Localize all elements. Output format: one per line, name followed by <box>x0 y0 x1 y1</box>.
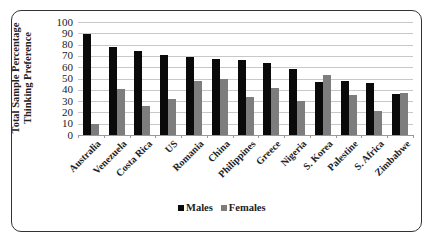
x-tick <box>258 135 259 138</box>
bar-females <box>246 97 254 135</box>
y-tick-label: 80 <box>43 39 73 50</box>
bar-females <box>220 79 228 136</box>
bar-males <box>289 69 297 135</box>
y-tick-label: 60 <box>43 62 73 73</box>
bar-males <box>366 83 374 135</box>
x-tick <box>181 135 182 138</box>
bar-females <box>400 93 408 135</box>
bar-males <box>186 57 194 135</box>
bar-males <box>109 47 117 135</box>
legend: Males Females <box>178 202 266 213</box>
y-tick-label: 40 <box>43 84 73 95</box>
gridline <box>78 67 413 68</box>
bar-males <box>263 63 271 135</box>
bar-females <box>91 124 99 135</box>
bar-males <box>160 55 168 135</box>
y-tick-label: 100 <box>43 17 73 28</box>
y-tick-label: 10 <box>43 118 73 129</box>
gridline <box>78 33 413 34</box>
y-tick-label: 30 <box>43 96 73 107</box>
x-tick <box>207 135 208 138</box>
males-swatch-icon <box>178 205 184 211</box>
bar-females <box>142 106 150 135</box>
bar-males <box>315 82 323 135</box>
y-tick-label: 20 <box>43 107 73 118</box>
legend-label-females: Females <box>229 202 266 213</box>
bar-females <box>194 81 202 135</box>
x-tick <box>284 135 285 138</box>
x-axis-line <box>78 135 413 136</box>
bar-females <box>374 111 382 135</box>
y-tick-label: 90 <box>43 28 73 39</box>
legend-label-males: Males <box>186 202 213 213</box>
x-tick <box>387 135 388 138</box>
y-tick-label: 0 <box>43 130 73 141</box>
bar-females <box>168 99 176 135</box>
x-tick <box>104 135 105 138</box>
x-tick <box>310 135 311 138</box>
y-axis-title-line-2: Thinking Preference <box>22 23 34 134</box>
bar-males <box>341 81 349 135</box>
legend-item-females: Females <box>221 202 266 213</box>
x-tick <box>361 135 362 138</box>
females-swatch-icon <box>221 205 227 211</box>
gridline <box>78 56 413 57</box>
y-axis-title-line-1: Total Sample Percentage <box>10 23 22 134</box>
bar-males <box>83 34 91 135</box>
bar-females <box>117 89 125 135</box>
x-tick <box>413 135 414 138</box>
bar-females <box>297 101 305 135</box>
y-tick-label: 50 <box>43 73 73 84</box>
x-tick <box>78 135 79 138</box>
x-tick <box>130 135 131 138</box>
x-tick <box>155 135 156 138</box>
x-tick <box>336 135 337 138</box>
bar-males <box>212 59 220 135</box>
legend-item-males: Males <box>178 202 213 213</box>
bar-females <box>271 88 279 135</box>
gridline <box>78 79 413 80</box>
gridline <box>78 22 413 23</box>
bar-females <box>349 95 357 135</box>
bar-females <box>323 75 331 135</box>
gridline <box>78 90 413 91</box>
bar-males <box>134 51 142 135</box>
plot-area: 0102030405060708090100AustraliaVenezuela… <box>78 22 413 135</box>
gridline <box>78 45 413 46</box>
x-tick <box>233 135 234 138</box>
bar-males <box>238 60 246 135</box>
y-tick-label: 70 <box>43 50 73 61</box>
bar-males <box>392 94 400 135</box>
